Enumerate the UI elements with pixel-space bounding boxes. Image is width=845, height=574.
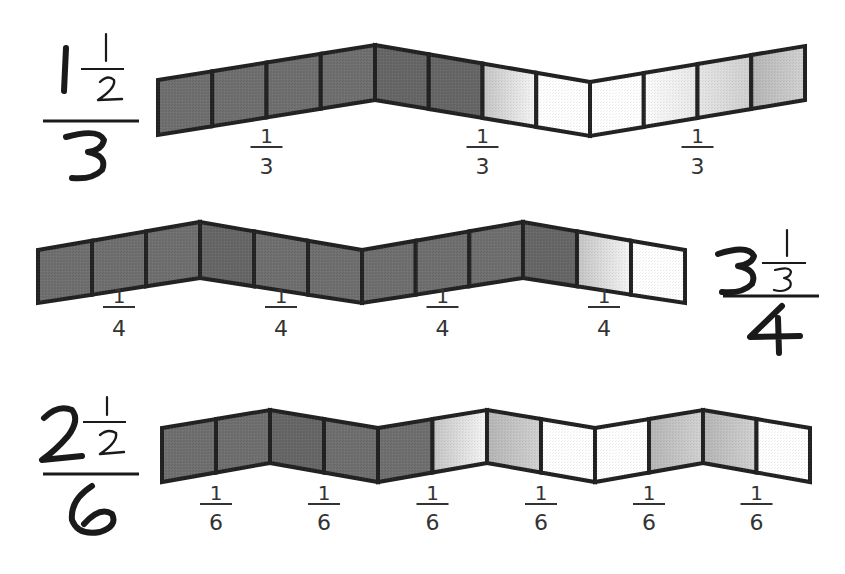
segment-fraction-label: 16 <box>741 481 773 535</box>
segment-fraction-label: 13 <box>467 124 499 179</box>
segment-denominator: 4 <box>274 316 288 341</box>
segment-fraction-label: 16 <box>525 481 557 535</box>
cell-texture <box>362 241 416 303</box>
cell-texture <box>649 410 703 473</box>
segment-denominator: 6 <box>642 510 656 535</box>
segment-numerator: 1 <box>691 124 704 148</box>
cell-texture <box>158 71 212 135</box>
cell-texture <box>757 419 811 482</box>
cell-texture <box>212 63 266 127</box>
segment-numerator: 1 <box>210 481 223 505</box>
segment-numerator: 1 <box>643 481 656 505</box>
segment-fraction-label: 16 <box>417 481 449 535</box>
segment-numerator: 1 <box>598 284 611 308</box>
segment-numerator: 1 <box>436 284 449 308</box>
cell-texture <box>523 222 577 286</box>
segment-numerator: 1 <box>260 124 273 148</box>
segment-fraction-label: 16 <box>308 481 340 535</box>
cell-texture <box>469 222 523 286</box>
segment-numerator: 1 <box>750 481 763 505</box>
cell-texture <box>487 410 541 473</box>
cell-texture <box>433 410 488 473</box>
cell-texture <box>429 54 483 118</box>
cell-texture <box>631 241 685 303</box>
cell-texture <box>595 419 649 482</box>
cell-texture <box>216 410 270 473</box>
segment-denominator: 6 <box>534 510 548 535</box>
cell-texture <box>375 45 429 109</box>
cell-texture <box>644 64 698 127</box>
cell-texture <box>267 54 321 118</box>
segment-numerator: 1 <box>535 481 548 505</box>
cell-texture <box>751 46 805 109</box>
fraction-strips-diagram: 131313 14141414 161616161616 <box>0 0 845 574</box>
cell-texture <box>590 73 644 136</box>
segment-denominator: 6 <box>750 510 764 535</box>
fraction-row-2: 14141414 <box>38 222 685 341</box>
cell-texture <box>541 419 595 482</box>
cell-texture <box>536 73 590 136</box>
segment-fraction-label: 16 <box>633 481 665 535</box>
segment-denominator: 3 <box>260 154 274 179</box>
big-fraction-row-1 <box>43 34 139 178</box>
segment-denominator: 4 <box>112 316 126 341</box>
segment-numerator: 1 <box>113 284 126 308</box>
cell-texture <box>146 222 200 286</box>
segment-fraction-label: 13 <box>682 124 714 179</box>
segment-numerator: 1 <box>318 481 331 505</box>
cell-texture <box>324 419 378 482</box>
segment-numerator: 1 <box>426 481 439 505</box>
segment-denominator: 4 <box>597 316 611 341</box>
segment-denominator: 4 <box>436 316 450 341</box>
cell-texture <box>378 419 433 482</box>
cell-texture <box>200 222 254 286</box>
cell-texture <box>703 410 757 473</box>
segment-denominator: 3 <box>691 154 705 179</box>
cell-texture <box>162 419 216 482</box>
cell-texture <box>38 241 92 303</box>
cell-texture <box>308 241 362 303</box>
cell-texture <box>270 410 324 473</box>
segment-denominator: 6 <box>426 510 440 535</box>
cell-texture <box>321 45 375 109</box>
big-fraction-row-2 <box>718 230 819 353</box>
cell-texture <box>483 64 537 128</box>
segment-denominator: 6 <box>209 510 223 535</box>
segment-denominator: 3 <box>476 154 490 179</box>
segment-numerator: 1 <box>275 284 288 308</box>
fraction-row-3: 161616161616 <box>162 410 810 535</box>
big-fraction-row-3 <box>42 397 139 533</box>
segment-numerator: 1 <box>476 124 489 148</box>
segment-fraction-label: 16 <box>200 481 232 535</box>
cell-texture <box>698 55 752 118</box>
segment-fraction-label: 13 <box>251 124 283 179</box>
segment-denominator: 6 <box>317 510 331 535</box>
fraction-row-1: 131313 <box>158 45 805 179</box>
